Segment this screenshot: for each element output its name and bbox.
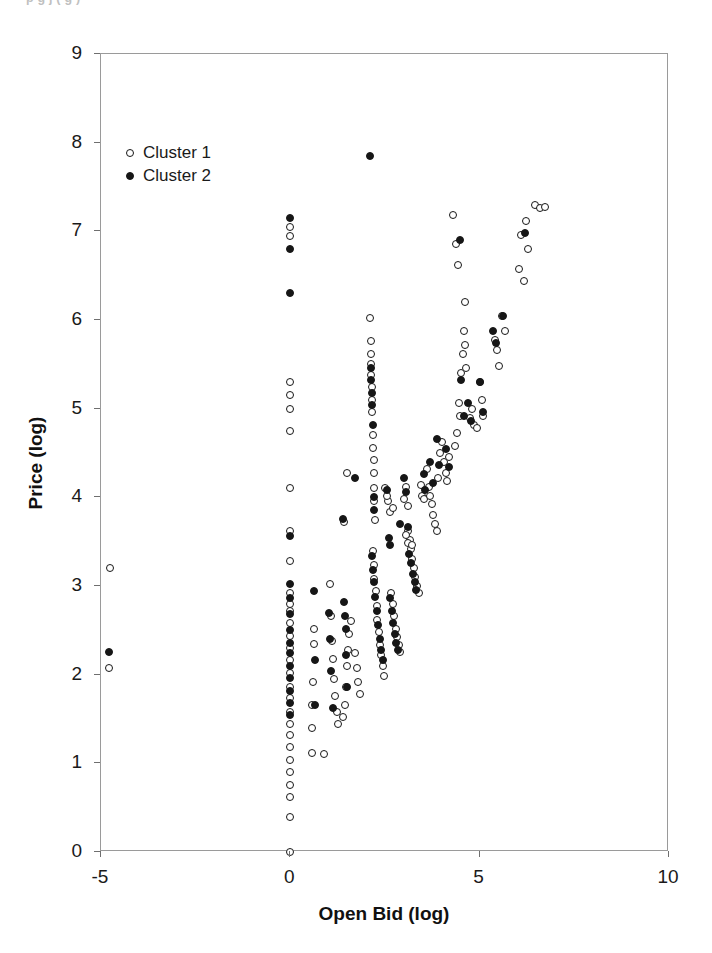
data-point bbox=[371, 516, 379, 524]
data-point bbox=[286, 781, 294, 789]
open-circle-marker-icon bbox=[126, 149, 134, 157]
data-point bbox=[351, 649, 359, 657]
data-point bbox=[343, 662, 351, 670]
data-point bbox=[286, 813, 294, 821]
data-point bbox=[370, 493, 378, 501]
data-point bbox=[396, 520, 404, 528]
data-point bbox=[367, 364, 375, 372]
y-tick-label: 1 bbox=[42, 752, 82, 771]
data-point bbox=[451, 442, 459, 450]
x-tick-mark bbox=[289, 851, 290, 857]
x-tick-mark bbox=[479, 851, 480, 857]
data-point bbox=[461, 341, 469, 349]
data-point bbox=[286, 223, 294, 231]
data-point bbox=[106, 564, 114, 572]
data-point bbox=[368, 408, 376, 416]
data-point bbox=[386, 594, 394, 602]
data-point bbox=[343, 683, 351, 691]
data-point bbox=[428, 500, 436, 508]
data-point bbox=[356, 690, 364, 698]
data-point bbox=[369, 444, 377, 452]
data-point bbox=[286, 711, 294, 719]
data-point bbox=[330, 675, 338, 683]
data-point bbox=[400, 474, 408, 482]
data-point bbox=[366, 314, 374, 322]
data-point bbox=[308, 724, 316, 732]
x-axis-title: Open Bid (log) bbox=[100, 903, 668, 925]
y-tick-label: 4 bbox=[42, 486, 82, 505]
data-point bbox=[286, 391, 294, 399]
y-tick-label: 8 bbox=[42, 132, 82, 151]
data-point bbox=[394, 646, 402, 654]
data-point bbox=[286, 245, 294, 253]
data-point bbox=[459, 350, 467, 358]
data-point bbox=[286, 720, 294, 728]
data-point bbox=[329, 655, 337, 663]
data-point bbox=[320, 750, 328, 758]
data-point bbox=[286, 793, 294, 801]
y-tick-label: 5 bbox=[42, 398, 82, 417]
data-point bbox=[402, 531, 410, 539]
data-point bbox=[478, 396, 486, 404]
data-point bbox=[369, 431, 377, 439]
filled-circle-marker-icon bbox=[126, 172, 134, 180]
data-point bbox=[286, 699, 294, 707]
data-point bbox=[309, 678, 317, 686]
data-point bbox=[370, 578, 378, 586]
data-point bbox=[369, 421, 377, 429]
x-tick-label: -5 bbox=[70, 867, 130, 886]
data-point bbox=[325, 609, 333, 617]
data-point bbox=[460, 327, 468, 335]
data-point bbox=[369, 566, 377, 574]
data-point bbox=[376, 635, 384, 643]
data-point bbox=[495, 362, 503, 370]
y-tick-mark bbox=[94, 142, 100, 143]
data-point bbox=[286, 289, 294, 297]
data-point bbox=[286, 378, 294, 386]
data-point bbox=[445, 453, 453, 461]
data-point bbox=[354, 678, 362, 686]
data-point bbox=[353, 664, 361, 672]
y-tick-mark bbox=[94, 496, 100, 497]
data-point bbox=[492, 339, 500, 347]
y-tick-mark bbox=[94, 674, 100, 675]
data-point bbox=[386, 541, 394, 549]
data-point bbox=[370, 456, 378, 464]
data-point bbox=[347, 617, 355, 625]
data-point bbox=[476, 378, 484, 386]
data-point bbox=[327, 667, 335, 675]
legend-item-cluster-1: Cluster 1 bbox=[126, 141, 211, 164]
data-point bbox=[522, 217, 530, 225]
data-point bbox=[342, 625, 350, 633]
data-point bbox=[286, 580, 294, 588]
legend: Cluster 1 Cluster 2 bbox=[126, 141, 211, 187]
data-point bbox=[456, 236, 464, 244]
data-point bbox=[331, 692, 339, 700]
y-axis-title: Price (log) bbox=[25, 363, 47, 563]
data-point bbox=[377, 646, 385, 654]
data-point bbox=[391, 630, 399, 638]
data-point bbox=[286, 756, 294, 764]
data-point bbox=[286, 532, 294, 540]
scatter-plot-figure: 0123456789 -50510 Price (log) Open Bid (… bbox=[0, 0, 712, 953]
data-point bbox=[286, 848, 294, 856]
y-tick-label: 2 bbox=[42, 664, 82, 683]
y-tick-label: 7 bbox=[42, 220, 82, 239]
data-point bbox=[340, 598, 348, 606]
data-point bbox=[489, 327, 497, 335]
data-point bbox=[454, 261, 462, 269]
data-point bbox=[367, 350, 375, 358]
data-point bbox=[501, 327, 509, 335]
data-point bbox=[453, 429, 461, 437]
data-point bbox=[286, 743, 294, 751]
data-point bbox=[457, 376, 465, 384]
data-point bbox=[407, 559, 415, 567]
data-point bbox=[343, 469, 351, 477]
data-point bbox=[311, 701, 319, 709]
legend-label-cluster-1: Cluster 1 bbox=[143, 143, 211, 163]
y-tick-mark bbox=[94, 319, 100, 320]
data-point bbox=[286, 557, 294, 565]
data-point bbox=[311, 656, 319, 664]
data-point bbox=[479, 408, 487, 416]
data-point bbox=[310, 587, 318, 595]
